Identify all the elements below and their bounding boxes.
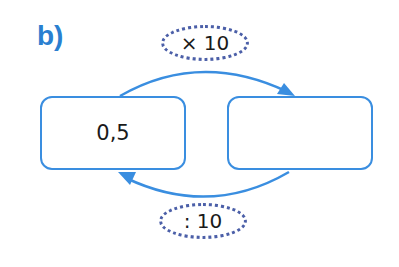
arrowhead-backward-icon: [118, 172, 136, 185]
box-input-value: 0,5: [96, 121, 129, 145]
arrow-backward: [126, 172, 289, 197]
operation-multiply-label: × 10: [181, 31, 230, 55]
operation-divide-label: : 10: [184, 209, 223, 233]
operation-divide: : 10: [159, 203, 247, 239]
operation-multiply: × 10: [161, 25, 249, 61]
box-answer[interactable]: [227, 96, 373, 170]
arrow-forward: [120, 72, 288, 96]
box-input: 0,5: [40, 96, 186, 170]
